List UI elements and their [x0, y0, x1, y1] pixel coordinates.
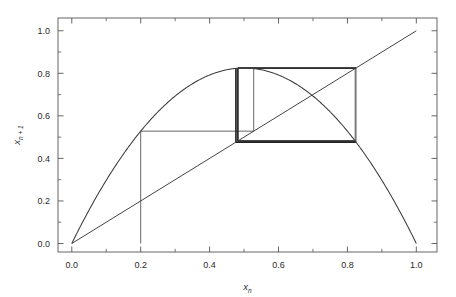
y-axis-title: xn + 1 — [11, 125, 24, 146]
y-tick-label: 1.0 — [37, 26, 50, 36]
identity-line — [72, 31, 417, 244]
x-tick-label: 0.2 — [134, 260, 147, 270]
y-tick-label: 0.6 — [37, 111, 50, 121]
plot-svg: 0.00.20.40.60.81.00.00.20.40.60.81.0xnxn… — [0, 0, 456, 297]
y-tick-label: 0.0 — [37, 239, 50, 249]
cobweb-path — [141, 68, 356, 244]
x-tick-label: 0.4 — [203, 260, 216, 270]
x-axis-title: xn — [242, 281, 252, 294]
y-tick-label: 0.4 — [37, 154, 50, 164]
y-tick-label: 0.2 — [37, 196, 50, 206]
x-tick-label: 0.0 — [66, 260, 79, 270]
y-tick-label: 0.8 — [37, 69, 50, 79]
x-tick-label: 0.6 — [272, 260, 285, 270]
logistic-curve — [72, 68, 417, 244]
svg-text:xn + 1: xn + 1 — [11, 125, 24, 146]
x-tick-label: 1.0 — [410, 260, 423, 270]
x-tick-label: 0.8 — [341, 260, 354, 270]
cobweb-plot-figure: 0.00.20.40.60.81.00.00.20.40.60.81.0xnxn… — [0, 0, 456, 297]
